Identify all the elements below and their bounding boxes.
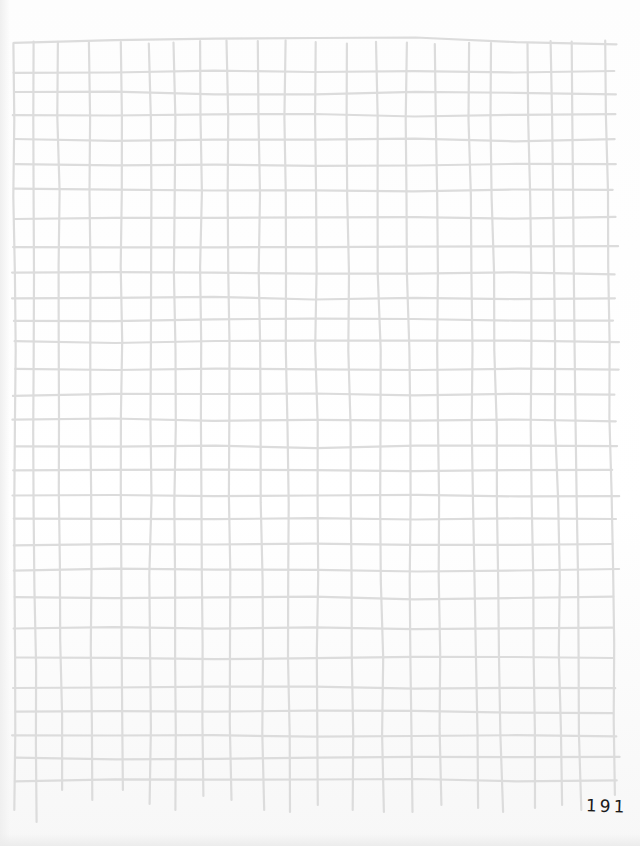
grid-vertical-line — [258, 41, 264, 810]
grid-vertical-line — [149, 44, 152, 805]
scanned-page: 191 — [0, 0, 640, 846]
grid-horizontal-line — [13, 687, 615, 689]
grid-vertical-line — [284, 40, 290, 812]
grid-horizontal-line — [14, 544, 613, 546]
grid-vertical-line — [57, 42, 62, 790]
grid-vertical-line — [89, 43, 92, 801]
grid-horizontal-line — [15, 657, 613, 659]
grid-vertical-line — [551, 41, 563, 805]
grid-vertical-line — [200, 41, 203, 796]
grid-horizontal-line — [16, 711, 613, 714]
grid-vertical-line — [528, 44, 536, 808]
grid-horizontal-line — [13, 495, 620, 497]
grid-horizontal-line — [13, 470, 612, 472]
grid-vertical-line — [347, 44, 354, 810]
grid-horizontal-line — [14, 189, 613, 192]
grid-vertical-line — [376, 42, 384, 812]
grid-horizontal-line — [14, 71, 615, 73]
grid-vertical-line — [315, 42, 318, 805]
grid-horizontal-line — [12, 419, 615, 422]
grid-vertical-line — [491, 43, 504, 812]
grid-horizontal-line — [14, 319, 613, 322]
grid-horizontal-line — [12, 272, 615, 274]
grid-horizontal-line — [15, 341, 619, 343]
hand-drawn-grid — [0, 0, 640, 846]
grid-lines — [12, 38, 620, 823]
grid-horizontal-line — [15, 779, 617, 781]
grid-horizontal-line — [12, 735, 616, 737]
grid-vertical-line — [435, 44, 442, 805]
grid-horizontal-line — [15, 446, 617, 448]
grid-vertical-line — [605, 41, 615, 795]
grid-horizontal-line — [14, 217, 616, 219]
grid-horizontal-line — [14, 569, 619, 572]
grid-vertical-line — [572, 42, 582, 811]
grid-horizontal-line — [12, 297, 615, 300]
grid-vertical-line — [33, 42, 36, 822]
page-number: 191 — [586, 795, 628, 816]
grid-vertical-line — [406, 43, 413, 813]
grid-vertical-line — [469, 43, 479, 808]
grid-horizontal-line — [13, 394, 615, 396]
grid-vertical-line — [13, 43, 15, 810]
grid-horizontal-line — [15, 597, 614, 600]
grid-vertical-line — [121, 42, 123, 790]
grid-horizontal-line — [14, 518, 616, 519]
grid-vertical-line — [174, 43, 176, 811]
grid-horizontal-line — [14, 627, 614, 629]
